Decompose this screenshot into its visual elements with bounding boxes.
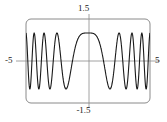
x-max-label: 5 bbox=[155, 56, 160, 65]
y-max-label: 1.5 bbox=[0, 4, 167, 13]
plot-canvas bbox=[0, 0, 167, 122]
y-min-label: -1.5 bbox=[0, 106, 167, 115]
chart-figure: 1.5 -1.5 -5 5 bbox=[0, 0, 167, 122]
x-min-label: -5 bbox=[5, 56, 13, 65]
